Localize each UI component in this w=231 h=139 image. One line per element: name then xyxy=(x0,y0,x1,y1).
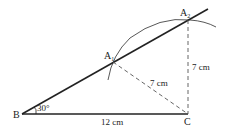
ray-b-a2 xyxy=(22,9,208,114)
label-angle: 30° xyxy=(37,103,50,113)
angle-marker xyxy=(34,107,36,114)
triangle-diagram: B C A1 A2 30° 12 cm 7 cm 7 cm xyxy=(0,0,231,139)
dashed-a1-c xyxy=(113,62,188,114)
label-side-a2c: 7 cm xyxy=(192,62,210,72)
label-side-a1c: 7 cm xyxy=(150,78,168,88)
label-b: B xyxy=(13,109,20,120)
label-base: 12 cm xyxy=(101,117,123,127)
label-c: C xyxy=(184,116,191,127)
label-a1: A1 xyxy=(104,50,114,62)
label-a2: A2 xyxy=(180,7,190,19)
